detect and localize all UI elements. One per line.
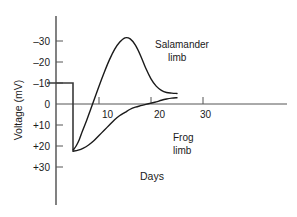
x-tick-label-10: 10 <box>102 109 114 120</box>
y-axis-title: Voltage (mV) <box>12 80 24 141</box>
frog-limb-label-line2: limb <box>173 145 192 156</box>
salamander-limb-curve <box>73 38 177 151</box>
frog-limb-curve <box>73 98 177 152</box>
y-tick-label-plus30: +30 <box>33 162 50 173</box>
y-tick-label-plus20: +20 <box>33 141 50 152</box>
stimulus-step-trace <box>47 83 73 150</box>
x-tick-label-20: 20 <box>154 109 166 120</box>
x-tick-label-30: 30 <box>200 109 212 120</box>
voltage-vs-days-chart: –30 –20 –10 0 +10 +20 +30 10 20 30 Volta… <box>0 0 297 217</box>
chart-svg: –30 –20 –10 0 +10 +20 +30 10 20 30 Volta… <box>0 0 297 217</box>
y-tick-label-minus20: –20 <box>33 57 50 68</box>
x-axis-title: Days <box>140 170 164 182</box>
frog-limb-label-line1: Frog <box>173 132 194 143</box>
y-tick-label-plus10: +10 <box>33 120 50 131</box>
y-tick-label-minus30: –30 <box>33 36 50 47</box>
salamander-limb-label-line2: limb <box>168 52 187 63</box>
salamander-limb-label-line1: Salamander <box>155 39 210 50</box>
y-tick-label-zero: 0 <box>44 99 50 110</box>
